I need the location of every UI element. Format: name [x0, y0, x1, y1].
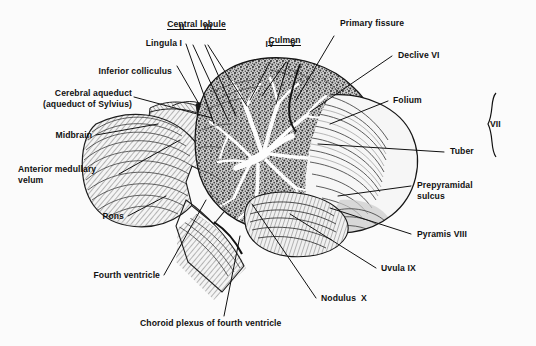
label-inferior-colliculus: Inferior colliculus	[50, 66, 172, 77]
label-choroid-plexus: Choroid plexus of fourth ventricle	[140, 318, 281, 329]
label-pyramis: Pyramis VIII	[417, 229, 467, 240]
label-pons: Pons	[62, 211, 124, 222]
label-cerebral-aqueduct-line2: (aqueduct of Sylvius)	[10, 99, 132, 110]
label-midbrain: Midbrain	[14, 130, 92, 141]
label-nodulus: Nodulus X	[321, 293, 367, 304]
label-primary-fissure: Primary fissure	[340, 18, 404, 29]
label-folium: Folium	[393, 95, 422, 106]
label-central-lobule: Central lobule	[142, 8, 246, 29]
label-culmen-numeral-iv: IV	[258, 39, 282, 50]
label-anterior-medullary-velum-line2: velum	[18, 175, 43, 186]
label-culmen-numeral-v: V	[282, 39, 304, 50]
label-bracket-vii-text: VII	[490, 119, 501, 130]
label-prepyramidal-sulcus-line1: Prepyramidal	[417, 180, 473, 191]
label-central-lobule-numeral-iii: III	[196, 22, 220, 33]
label-fourth-ventricle: Fourth ventricle	[60, 270, 160, 281]
label-prepyramidal-sulcus-line2: sulcus	[417, 191, 445, 202]
label-tuber: Tuber	[450, 146, 474, 157]
label-anterior-medullary-velum-line1: Anterior medullary	[18, 164, 96, 175]
label-uvula: Uvula IX	[381, 263, 416, 274]
label-central-lobule-numeral-ii: II	[170, 22, 194, 33]
label-declive: Declive VI	[398, 50, 440, 61]
label-cerebral-aqueduct-line1: Cerebral aqueduct	[10, 88, 132, 99]
label-lingula: Lingula I	[90, 38, 182, 49]
